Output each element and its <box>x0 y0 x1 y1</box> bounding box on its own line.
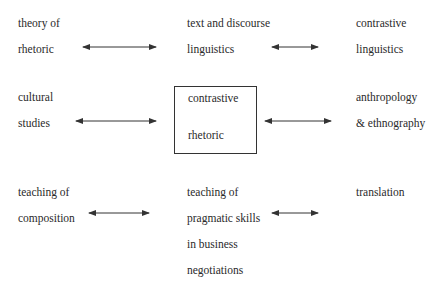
node-theory-of-rhetoric: theory of rhetoric <box>18 10 60 62</box>
node-line: teaching of <box>187 179 260 205</box>
node-line: studies <box>18 110 53 136</box>
node-line: text and discourse <box>187 10 270 36</box>
node-line: linguistics <box>187 36 270 62</box>
box-line: contrastive <box>188 92 238 104</box>
node-line: rhetoric <box>18 36 60 62</box>
box-line: rhetoric <box>188 129 224 141</box>
node-teaching-of-composition: teaching of composition <box>18 179 75 231</box>
node-teaching-of-pragmatic-skills: teaching of pragmatic skills in business… <box>187 179 260 283</box>
node-cultural-studies: cultural studies <box>18 84 53 136</box>
node-line: & ethnography <box>356 110 425 136</box>
node-line: negotiations <box>187 257 260 283</box>
node-line: composition <box>18 205 75 231</box>
node-line: contrastive <box>356 10 406 36</box>
node-line: teaching of <box>18 179 75 205</box>
node-line: anthropology <box>356 84 425 110</box>
node-line: in business <box>187 231 260 257</box>
node-line: cultural <box>18 84 53 110</box>
node-line: translation <box>356 179 405 205</box>
central-box-contrastive-rhetoric: contrastive rhetoric <box>174 86 257 154</box>
node-line: linguistics <box>356 36 406 62</box>
node-line: theory of <box>18 10 60 36</box>
node-translation: translation <box>356 179 405 205</box>
node-anthropology-ethnography: anthropology & ethnography <box>356 84 425 136</box>
node-contrastive-linguistics: contrastive linguistics <box>356 10 406 62</box>
node-text-and-discourse-linguistics: text and discourse linguistics <box>187 10 270 62</box>
node-line: pragmatic skills <box>187 205 260 231</box>
